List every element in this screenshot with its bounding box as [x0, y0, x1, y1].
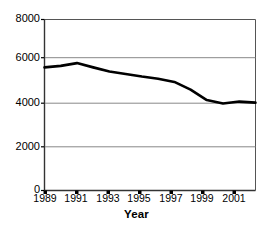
- ytick-label-2000: 2000: [0, 141, 40, 152]
- plot-frame: [45, 20, 256, 191]
- x-axis-title: Year: [0, 208, 273, 220]
- ytick-label-6000: 6000: [0, 52, 40, 63]
- ytick-label-8000: 8000: [0, 13, 40, 24]
- xtick-label-2001: 2001: [214, 193, 254, 204]
- ytick-label-4000: 4000: [0, 97, 40, 108]
- data-series-line: [45, 63, 256, 103]
- chart-container: 8000 6000 4000 2000 0 1989 1991 1993 199…: [0, 0, 273, 235]
